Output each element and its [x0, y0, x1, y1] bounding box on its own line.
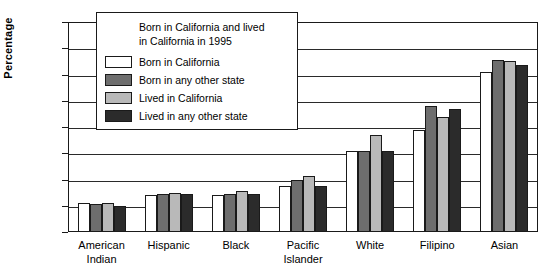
legend-swatch: [105, 92, 132, 104]
legend-entries: Born in CaliforniaBorn in any other stat…: [105, 53, 289, 124]
legend-label: Lived in California: [139, 92, 222, 104]
bar: [413, 130, 425, 232]
bar: [303, 176, 315, 232]
bar: [224, 194, 236, 232]
x-axis-label: Asian: [471, 239, 538, 253]
bar: [169, 193, 181, 232]
bar: [236, 191, 248, 232]
bar-chart: Percentage 01020304050607080 American In…: [0, 0, 546, 278]
legend-label: Born in any other state: [139, 74, 245, 86]
legend-title: Born in California and livedin Californi…: [139, 20, 289, 48]
bar: [437, 117, 449, 233]
legend: Born in California and livedin Californi…: [96, 12, 298, 130]
x-axis-label: Hispanic: [135, 239, 202, 253]
bar: [145, 195, 157, 232]
bar-group: [471, 22, 538, 232]
bar: [516, 65, 528, 232]
legend-entry: Lived in California: [105, 89, 289, 106]
bar: [382, 151, 394, 232]
legend-swatch: [105, 110, 132, 122]
bar: [157, 194, 169, 232]
y-axis-title: Percentage: [2, 0, 14, 108]
bar: [78, 203, 90, 232]
legend-entry: Born in California: [105, 53, 289, 70]
bar: [358, 151, 370, 232]
bar: [492, 60, 504, 232]
bar: [248, 194, 260, 232]
bar: [504, 61, 516, 232]
legend-entry: Lived in any other state: [105, 107, 289, 124]
bar: [291, 180, 303, 233]
bar: [279, 186, 291, 232]
bar: [480, 72, 492, 232]
x-axis-label: Filipino: [404, 239, 471, 253]
x-axis-label: Black: [202, 239, 269, 253]
x-axis-label: White: [337, 239, 404, 253]
bar: [181, 194, 193, 232]
bar: [425, 106, 437, 232]
bar: [114, 206, 126, 232]
legend-swatch: [105, 74, 132, 86]
bar: [449, 109, 461, 232]
bar: [370, 135, 382, 232]
bar: [346, 151, 358, 232]
bar: [212, 195, 224, 232]
x-axis-label: Pacific Islander: [269, 239, 336, 266]
legend-swatch: [105, 56, 132, 68]
y-tick-mark: [62, 232, 68, 233]
legend-entry: Born in any other state: [105, 71, 289, 88]
bar-group: [404, 22, 471, 232]
x-axis-label: American Indian: [68, 239, 135, 266]
bar-group: [337, 22, 404, 232]
bar: [102, 203, 114, 232]
bar: [90, 204, 102, 232]
legend-label: Born in California: [139, 56, 220, 68]
bar: [315, 186, 327, 232]
legend-label: Lived in any other state: [139, 110, 248, 122]
